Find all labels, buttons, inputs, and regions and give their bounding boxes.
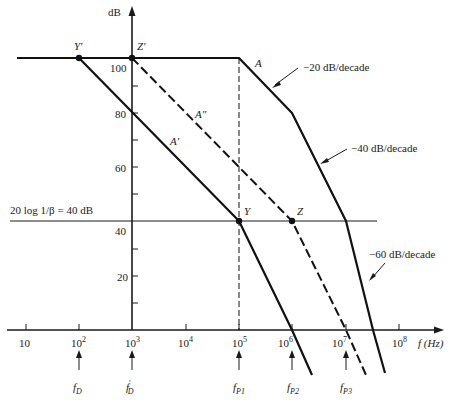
y-tick-100: 100 [110,62,127,74]
label-a-double-prime: A″ [194,108,207,120]
x-tick-10e6: 106 [278,335,293,349]
svg-text:fD: fD [73,381,82,396]
annotation-slope-60: −60 dB/decade [369,248,435,281]
marker-fp2: fP2 [287,350,299,396]
y-tick-80: 80 [115,108,127,120]
svg-text:fP3: fP3 [340,381,352,396]
label-a-prime: A′ [169,135,180,147]
label-z-prime: Z′ [137,40,146,52]
point-y [236,218,242,224]
label-a: A [254,57,262,69]
up-arrow-icon [129,350,135,358]
point-z [289,218,295,224]
y-tick-60: 60 [115,162,127,174]
up-arrow-icon [236,350,242,358]
up-arrow-icon [343,350,349,358]
curve-a-prime [79,58,312,375]
svg-text:fP1: fP1 [233,381,245,396]
x-tick-10e3: 103 [125,335,140,349]
x-tick-10e5: 105 [232,335,247,349]
point-z-prime [129,55,135,61]
marker-fd: fD [73,350,82,396]
x-axis-label: f (Hz) [418,337,444,350]
feedback-line-label: 20 log 1/β = 40 dB [10,204,93,216]
x-tick-10e2: 102 [71,335,86,349]
bode-plot-diagram: dB 100 80 60 40 20 10 102 103 104 105 10… [0,0,456,402]
marker-fd-prime: f′D [126,350,135,396]
label-y: Y [244,205,252,217]
svg-text:fP2: fP2 [287,381,299,396]
x-tick-10: 10 [19,337,31,349]
arrowhead-icon [320,158,329,164]
label-y-prime: Y′ [74,40,83,52]
annotation-slope-20: −20 dB/decade [272,61,369,88]
marker-fp1: fP1 [233,350,245,396]
svg-text:−20 dB/decade: −20 dB/decade [303,61,369,73]
marker-fp3: fP3 [340,350,352,396]
svg-text:−60 dB/decade: −60 dB/decade [369,248,435,260]
x-tick-10e8: 108 [392,335,407,349]
label-z: Z [297,205,304,217]
up-arrow-icon [76,350,82,358]
up-arrow-icon [289,350,295,358]
y-tick-40: 40 [115,225,127,237]
y-tick-20: 20 [117,271,129,283]
x-axis-arrow-icon [434,327,444,334]
x-tick-10e7: 107 [332,335,347,349]
y-axis-arrow-icon [129,6,136,16]
svg-text:−40 dB/decade: −40 dB/decade [351,142,417,154]
x-tick-10e4: 104 [178,335,193,349]
y-axis: dB 100 80 60 40 20 [108,6,138,330]
y-axis-label: dB [108,6,121,18]
annotation-slope-40: −40 dB/decade [320,142,417,164]
point-y-prime [76,55,82,61]
svg-text:f′D: f′D [126,379,134,396]
